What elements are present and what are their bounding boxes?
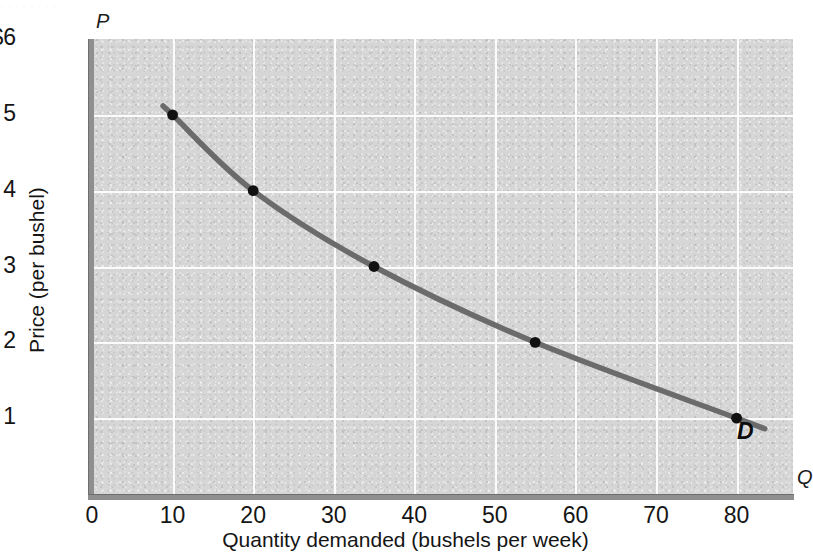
gridline-horizontal xyxy=(92,418,793,420)
y-tick-label: 3 xyxy=(3,252,16,279)
y-axis-spine xyxy=(88,39,94,499)
y-tick-label: 2 xyxy=(3,327,16,354)
x-tick-label: 30 xyxy=(304,502,364,529)
cut-off-caption-residue: · · · · · · · · xyxy=(0,0,811,7)
x-tick-label: 80 xyxy=(707,502,767,529)
x-tick-label: 40 xyxy=(384,502,444,529)
x-tick-label: 50 xyxy=(465,502,525,529)
x-tick-label: 0 xyxy=(62,502,122,529)
y-tick-label: 5 xyxy=(3,100,16,127)
x-axis-letter: Q xyxy=(797,466,813,489)
x-tick-label: 70 xyxy=(626,502,686,529)
demand-curve-label: D xyxy=(737,418,754,445)
gridline-horizontal xyxy=(92,342,793,344)
gridline-horizontal xyxy=(92,267,793,269)
gridline-horizontal xyxy=(92,191,793,193)
gridline-horizontal xyxy=(92,115,793,117)
x-axis-label: Quantity demanded (bushels per week) xyxy=(0,528,811,552)
y-tick-label: $6 xyxy=(0,24,16,51)
x-axis-spine xyxy=(88,494,794,500)
x-tick-label: 60 xyxy=(545,502,605,529)
y-tick-label: 4 xyxy=(3,176,16,203)
y-tick-label: 1 xyxy=(3,403,16,430)
y-axis-label: Price (per bushel) xyxy=(25,140,49,400)
plot-area xyxy=(92,39,793,494)
y-axis-letter: P xyxy=(96,10,109,33)
x-tick-label: 20 xyxy=(223,502,283,529)
x-tick-label: 10 xyxy=(143,502,203,529)
